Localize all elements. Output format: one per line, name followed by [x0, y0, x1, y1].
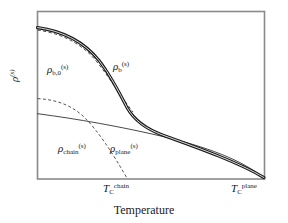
- annotation-rho-chain-sub: chain: [63, 148, 78, 156]
- annotation-rho-b0: ρb,0(s): [47, 64, 68, 77]
- annotation-rho-chain-sup: (s): [78, 142, 85, 150]
- x-axis-title: Temperature: [0, 203, 288, 218]
- x-tick-tc-chain: TCchain: [103, 183, 129, 196]
- annotation-rho-b0-sup: (s): [61, 63, 68, 71]
- annotation-rho-plane-sup: (s): [130, 142, 137, 150]
- annotation-rho-plane: ρplane(s): [110, 143, 138, 156]
- y-axis-label-sup: (s): [8, 69, 16, 76]
- x-tick-tc-chain-sup: chain: [114, 182, 129, 190]
- x-tick-tc-plane: TCplane: [231, 183, 257, 196]
- annotation-rho-b0-sub: b,0: [52, 69, 61, 77]
- annotation-rho-b: ρb(s): [113, 61, 129, 74]
- annotation-rho-plane-sub: plane: [115, 148, 130, 156]
- annotation-rho-chain: ρchain(s): [58, 143, 86, 156]
- y-axis-label: ρ(s): [8, 69, 20, 82]
- annotation-rho-b-sup: (s): [122, 60, 129, 68]
- x-tick-tc-plane-sup: plane: [242, 182, 257, 190]
- y-axis-label-rho: ρ: [8, 77, 20, 82]
